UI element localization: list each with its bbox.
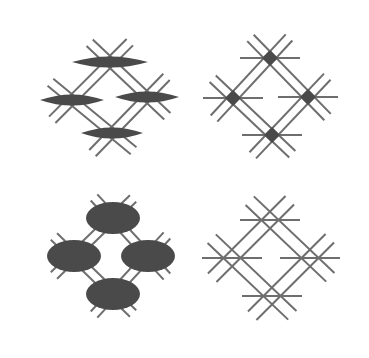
panel-line-crossings	[202, 196, 340, 320]
diagonal-line	[210, 82, 290, 158]
panel-ellipse-nodes	[47, 194, 175, 317]
diagonal-line	[247, 41, 324, 120]
diagram-svg	[0, 0, 369, 358]
diagonal-line	[254, 196, 335, 273]
ellipse-node	[47, 240, 101, 272]
panel-diamond-nodes	[203, 34, 338, 158]
diagonal-line	[49, 39, 127, 117]
diagonal-line	[254, 35, 331, 114]
spindle-node	[115, 91, 179, 102]
panel-spindle-nodes	[40, 39, 179, 156]
ellipse-node	[86, 278, 140, 310]
diamond-node	[300, 89, 316, 105]
diagonal-line	[211, 34, 286, 115]
diagonal-line	[248, 234, 326, 312]
ellipse-node	[86, 202, 140, 234]
diagonal-line	[216, 75, 296, 151]
diagonal-line	[216, 204, 294, 282]
spindle-node	[81, 127, 143, 138]
diamond-node	[264, 127, 280, 143]
lattice-diagram	[0, 0, 369, 358]
diamond-node	[225, 90, 241, 106]
diagonal-line	[93, 39, 171, 112]
diagonal-line	[256, 242, 334, 320]
ellipse-node	[121, 240, 175, 272]
diagonal-line	[216, 234, 297, 311]
diagonal-line	[246, 205, 327, 282]
diamond-node	[262, 50, 278, 66]
spindle-node	[72, 56, 148, 67]
diagonal-line	[208, 243, 289, 320]
diagonal-line	[217, 41, 292, 122]
diagonal-line	[249, 74, 324, 153]
diagonal-line	[208, 196, 286, 274]
spindle-node	[40, 94, 104, 105]
diagonal-line	[256, 80, 331, 159]
